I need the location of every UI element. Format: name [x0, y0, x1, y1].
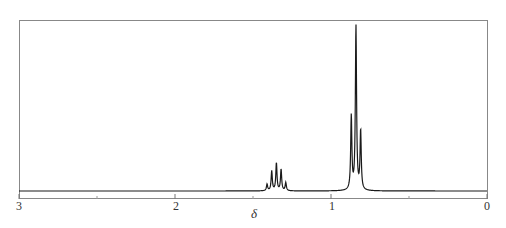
spectrum-trace [19, 25, 487, 191]
x-tick-label-1: 1 [329, 199, 335, 213]
nmr-spectrum-chart: 3 2 1 0 δ [0, 0, 506, 228]
x-tick-label-0: 0 [484, 199, 490, 213]
x-axis-title-delta: δ [251, 206, 258, 221]
x-tick-label-2: 2 [173, 199, 179, 213]
x-tick-label-3: 3 [16, 199, 22, 213]
plot-frame [20, 21, 488, 199]
